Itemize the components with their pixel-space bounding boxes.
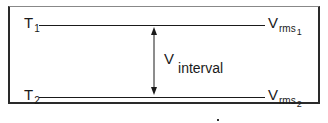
double-arrow-icon [148,27,160,95]
stray-dot [217,119,219,121]
vrms2-label: Vrms2 [268,87,302,102]
t1-horizon-line [39,25,265,26]
t1-label: T1 [24,15,40,30]
vrms1-label: Vrms1 [268,15,302,30]
t2-label: T2 [24,87,40,102]
v-interval-label: Vinterval [164,51,223,66]
t2-horizon-line [39,97,265,98]
